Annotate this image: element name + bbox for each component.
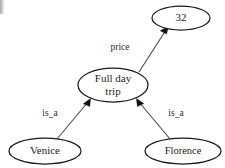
edge-is-a-left-line (57, 102, 88, 139)
edge-label-is-a-right: is_a (168, 108, 184, 118)
node-concept-label-line1: Full day (95, 72, 132, 84)
node-city-florence[interactable]: Florence (145, 138, 221, 164)
node-city-venice[interactable]: Venice (9, 138, 81, 164)
edge-price (139, 26, 169, 72)
node-city-florence-label: Florence (165, 145, 202, 156)
node-concept[interactable]: Full day trip (78, 68, 148, 102)
edge-label-price: price (111, 42, 130, 52)
edge-price-line (139, 30, 166, 72)
edge-is-a-right (136, 99, 170, 140)
edge-is-a-left (57, 99, 91, 140)
edge-is-a-right-line (139, 102, 170, 139)
node-value-label: 32 (176, 11, 187, 23)
graph-canvas: 32 Full day trip Venice Florence price i… (0, 0, 225, 168)
edge-is-a-left-arrowhead-icon (83, 99, 90, 107)
edge-label-is-a-left: is_a (42, 108, 58, 118)
semantic-network-figure: 32 Full day trip Venice Florence price i… (0, 0, 225, 168)
node-concept-label-line2: trip (105, 85, 121, 97)
edge-is-a-right-arrowhead-icon (136, 99, 143, 107)
node-value[interactable]: 32 (152, 6, 210, 30)
node-city-venice-label: Venice (30, 144, 60, 156)
